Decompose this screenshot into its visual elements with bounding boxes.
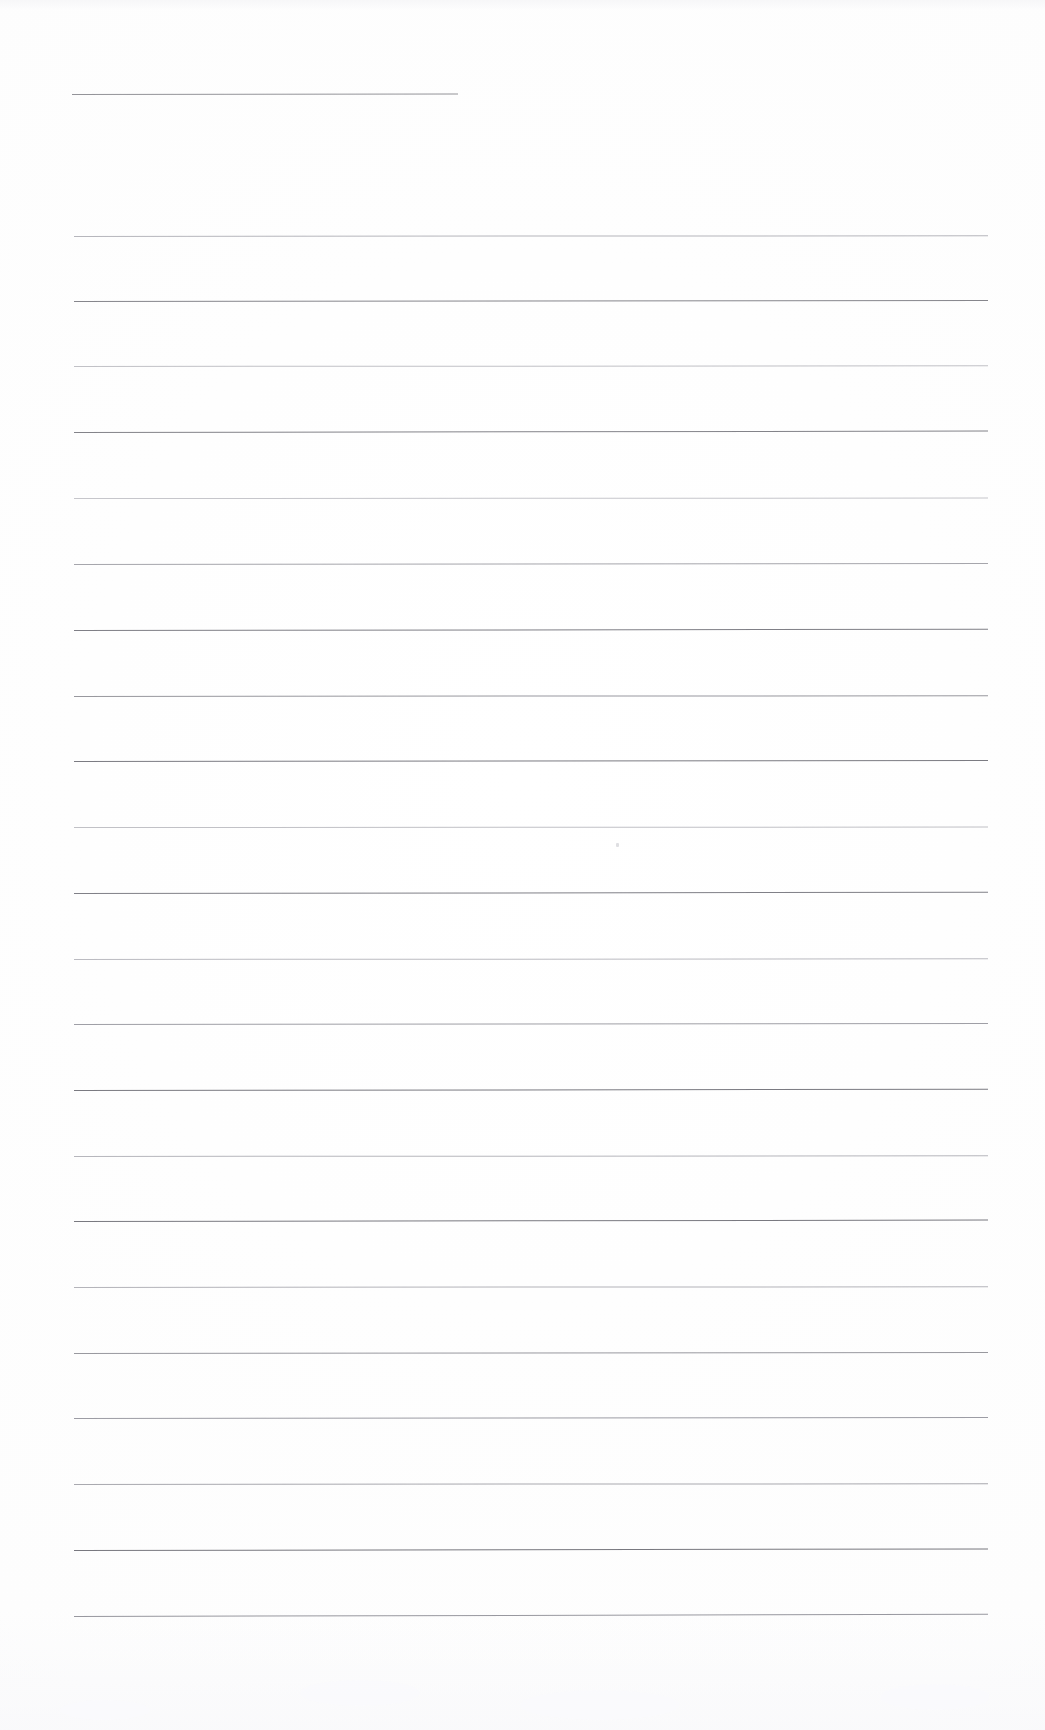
ruled-line <box>74 563 988 565</box>
ruled-line <box>74 498 988 499</box>
ruled-line <box>74 629 988 631</box>
scan-speck-icon <box>616 843 619 847</box>
paper-texture <box>0 0 1045 1730</box>
ruled-line <box>74 300 988 302</box>
ruled-line <box>74 1023 988 1025</box>
ruled-line <box>74 235 988 237</box>
ruled-line <box>74 1089 988 1091</box>
ruled-line <box>74 1286 988 1288</box>
ruled-line <box>74 827 988 828</box>
scan-smudge <box>300 1680 420 1706</box>
scan-smudge <box>880 1684 990 1710</box>
ruled-line <box>74 695 988 697</box>
ruled-line <box>74 1614 988 1617</box>
ruled-line <box>74 1155 988 1157</box>
scan-edge-top-shading <box>0 0 1045 10</box>
ruled-line <box>74 958 988 960</box>
scan-smudge <box>520 1690 680 1720</box>
ruled-line <box>74 1483 988 1485</box>
ruled-line-short <box>72 94 458 95</box>
ruled-line <box>74 760 988 762</box>
ruled-line <box>74 1220 988 1222</box>
ruled-line <box>74 892 988 894</box>
scanned-page <box>0 0 1045 1730</box>
scan-smudge <box>60 1700 150 1720</box>
ruled-line <box>74 431 988 433</box>
ruled-line <box>74 1417 988 1419</box>
scan-edge-bottom-shading <box>0 1610 1045 1730</box>
ruled-line <box>74 365 988 367</box>
ruled-line <box>74 1548 988 1551</box>
ruled-line <box>74 1352 988 1354</box>
